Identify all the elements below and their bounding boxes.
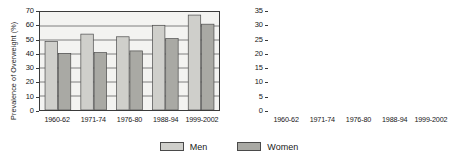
y-tick-label: 10 (239, 78, 263, 86)
y-tick-mark (36, 111, 39, 112)
y-tick-mark (265, 40, 268, 41)
y-tick-mark (265, 11, 268, 12)
bar-women-1976-80 (130, 51, 142, 110)
bar-men-1976-80 (117, 37, 129, 110)
y-tick-label: 70 (10, 7, 34, 15)
y-tick-mark (265, 111, 268, 112)
y-tick-label: 0 (10, 107, 34, 115)
x-tick-label: 1999-2002 (184, 116, 220, 123)
x-tick-label: 1960-62 (39, 116, 75, 123)
bar-women-1971-74 (94, 53, 106, 110)
x-tick-label: 1971-74 (75, 116, 111, 123)
bar-women-1960-62 (58, 54, 70, 110)
x-tick-label: 1976-80 (341, 116, 377, 123)
chart-panel-obesity: Prevalence of Obesity (%) 05101520253035… (227, 0, 458, 135)
legend-item-women: Women (237, 142, 298, 152)
x-tick-label: 1960-62 (268, 116, 304, 123)
y-tick-label: 10 (10, 93, 34, 101)
y-tick-mark (265, 97, 268, 98)
x-tick-label: 1988-94 (377, 116, 413, 123)
y-tick-mark (265, 68, 268, 69)
y-tick-label: 5 (239, 93, 263, 101)
y-tick-mark (265, 82, 268, 83)
x-tick-label: 1971-74 (304, 116, 340, 123)
figure-root: Prevalence of Overweight (%) 01020304050… (0, 0, 458, 157)
chart-legend: Men Women (0, 136, 458, 157)
y-tick-label: 60 (10, 21, 34, 29)
y-tick-label: 40 (10, 50, 34, 58)
plot-area-overweight (39, 11, 220, 111)
bar-men-1988-94 (152, 25, 164, 110)
legend-item-men: Men (160, 142, 208, 152)
y-tick-label: 0 (239, 107, 263, 115)
y-tick-label: 20 (239, 50, 263, 58)
y-tick-label: 30 (10, 64, 34, 72)
bar-men-1960-62 (45, 41, 57, 110)
bar-women-1999-2002 (201, 24, 213, 110)
y-tick-mark (265, 25, 268, 26)
legend-label-women: Women (267, 142, 298, 152)
chart-panel-overweight: Prevalence of Overweight (%) 01020304050… (0, 0, 229, 135)
bar-men-1971-74 (81, 34, 93, 110)
y-tick-label: 20 (10, 78, 34, 86)
y-tick-label: 30 (239, 21, 263, 29)
x-tick-label: 1976-80 (112, 116, 148, 123)
bar-women-1988-94 (166, 39, 178, 110)
bar-men-1999-2002 (188, 15, 200, 110)
legend-swatch-women (237, 142, 261, 151)
y-tick-label: 15 (239, 64, 263, 72)
y-tick-label: 25 (239, 36, 263, 44)
legend-label-men: Men (190, 142, 208, 152)
y-tick-label: 35 (239, 7, 263, 15)
x-tick-label: 1988-94 (148, 116, 184, 123)
legend-swatch-men (160, 142, 184, 151)
y-tick-mark (265, 54, 268, 55)
x-tick-label: 1999-2002 (413, 116, 449, 123)
y-tick-label: 50 (10, 36, 34, 44)
